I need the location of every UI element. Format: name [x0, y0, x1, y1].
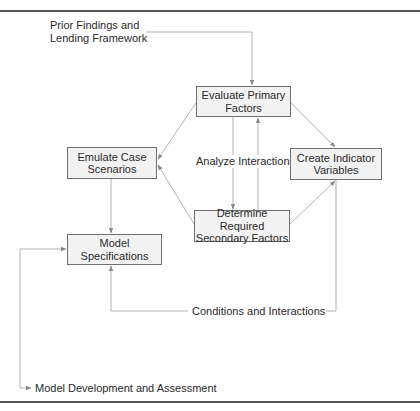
edge-loop-to-development: [20, 380, 31, 388]
node-create-indicator-variables[interactable]: Create Indicator Variables: [290, 148, 382, 180]
edge-loop-to-modelspec: [20, 249, 66, 380]
model-development-label: Model Development and Assessment: [35, 382, 217, 395]
edge-prior-to-evaluate: [146, 32, 252, 85]
prior-findings-line1: Prior Findings and: [50, 19, 147, 32]
node-label-line1: Model Specifications: [68, 237, 161, 262]
node-evaluate-primary-factors[interactable]: Evaluate Primary Factors: [196, 86, 291, 117]
node-emulate-case-scenarios[interactable]: Emulate Case Scenarios: [67, 147, 157, 179]
edge-evaluate-to-indicator: [291, 103, 335, 147]
connector-layer: [0, 0, 420, 411]
prior-findings-label: Prior Findings and Lending Framework: [50, 19, 147, 44]
node-label-line2: Factors: [202, 102, 286, 115]
node-model-specifications[interactable]: Model Specifications: [67, 234, 162, 265]
analyze-interactions-label: Analyze Interactions: [196, 155, 295, 168]
conditions-and-interactions-label: Conditions and Interactions: [192, 305, 325, 318]
node-label-line1: Evaluate Primary: [202, 89, 286, 102]
edge-conditions-to-modelspec: [111, 266, 188, 311]
edge-secondary-to-indicator: [290, 181, 335, 224]
node-label-line1: Create Indicator: [297, 152, 375, 165]
prior-findings-line2: Lending Framework: [50, 32, 147, 45]
node-label-line2: Scenarios: [77, 163, 146, 176]
node-label-line2: Variables: [297, 164, 375, 177]
edge-evaluate-to-emulate: [158, 103, 196, 159]
node-label-line1: Determine Required: [195, 207, 289, 232]
edge-indicator-down: [326, 180, 336, 311]
edge-secondary-to-emulate: [158, 165, 194, 224]
node-label-line1: Emulate Case: [77, 151, 146, 164]
node-determine-secondary-factors[interactable]: Determine Required Secondary Factors: [194, 210, 290, 242]
node-label-line2: Secondary Factors: [195, 232, 289, 245]
